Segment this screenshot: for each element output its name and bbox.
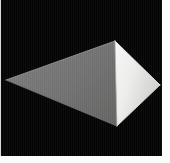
canvas-left-rule — [0, 0, 1, 156]
shape-render-viewer — [0, 0, 170, 163]
pyramid-right-face — [115, 41, 160, 126]
page-margin-right — [162, 0, 170, 163]
pyramid-left-face — [6, 41, 117, 126]
pyramid-svg — [1, 0, 162, 156]
render-canvas[interactable] — [1, 0, 162, 156]
pyramid-body — [6, 41, 160, 126]
page-margin-bottom — [0, 156, 170, 163]
